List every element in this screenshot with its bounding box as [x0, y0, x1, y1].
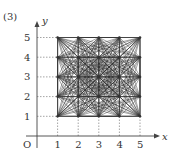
x-tick-labels: 12345 — [55, 139, 144, 150]
lattice-point — [77, 76, 80, 79]
lattice-point — [139, 76, 142, 79]
y-tick-label: 2 — [24, 91, 30, 102]
lattice-point — [98, 36, 101, 39]
x-tick-label: 3 — [96, 139, 102, 150]
lattice-point — [139, 95, 142, 98]
lattice-point — [118, 56, 121, 59]
origin-label: O — [23, 139, 31, 150]
lattice-point — [139, 36, 142, 39]
x-tick-label: 4 — [116, 139, 122, 150]
y-tick-label: 4 — [24, 52, 30, 63]
lattice-point — [118, 95, 121, 98]
x-tick-label: 1 — [55, 139, 61, 150]
lattice-point — [77, 115, 80, 118]
y-axis-arrow-icon — [35, 21, 40, 27]
y-tick-label: 5 — [24, 32, 30, 43]
lattice-point — [77, 95, 80, 98]
y-tick-label: 3 — [24, 71, 30, 82]
lattice-point — [98, 95, 101, 98]
lattice-point — [56, 76, 59, 79]
lattice-point — [139, 115, 142, 118]
lattice-point — [118, 36, 121, 39]
lattice-point — [98, 76, 101, 79]
lattice-segments — [56, 36, 141, 117]
lattice-point — [98, 56, 101, 59]
x-axis-label: x — [162, 131, 168, 142]
y-tick-labels: 12345 — [24, 32, 30, 122]
lattice-point — [139, 56, 142, 59]
lattice-point — [77, 56, 80, 59]
problem-label: (3) — [3, 11, 17, 22]
lattice-point — [77, 36, 80, 39]
x-tick-label: 5 — [137, 139, 143, 150]
lattice-point — [98, 115, 101, 118]
lattice-point — [118, 115, 121, 118]
lattice-point — [56, 95, 59, 98]
lattice-diagram: (3) y x O 12345 12345 — [0, 0, 169, 152]
y-axis-label: y — [41, 15, 48, 26]
x-tick-label: 2 — [75, 139, 81, 150]
y-tick-label: 1 — [24, 111, 30, 122]
x-axis-arrow-icon — [154, 134, 160, 139]
lattice-point — [56, 115, 59, 118]
lattice-point — [56, 36, 59, 39]
lattice-point — [56, 56, 59, 59]
lattice-point — [118, 76, 121, 79]
